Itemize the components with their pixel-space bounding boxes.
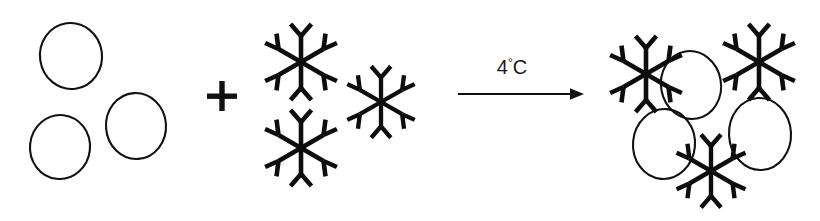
arrow-head-icon [570,88,584,100]
reactant-snowflake-group [265,24,415,186]
product-complex-group [610,24,795,207]
reaction-scene: 4°C [0,0,820,221]
snowflake-icon [265,110,337,186]
snowflake-icon [265,24,337,100]
condition-unit: C [513,56,527,78]
reactant-circle-group [27,19,168,182]
circle-icon [727,96,793,171]
plus-operator-icon [207,81,237,111]
circle-icon [27,112,93,182]
circle-icon [36,19,107,93]
reaction-arrow-group: 4°C [458,56,584,100]
condition-value: 4 [497,56,508,78]
snowflake-icon [723,24,795,100]
reaction-diagram: 4°C [0,0,820,221]
snowflake-icon [677,135,746,208]
condition-label: 4°C [497,56,527,78]
snowflake-icon [610,36,682,112]
snowflake-icon [347,66,414,137]
circle-icon [104,91,168,161]
